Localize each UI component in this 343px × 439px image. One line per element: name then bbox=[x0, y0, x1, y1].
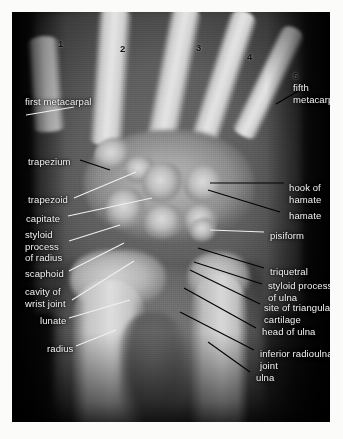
label-styloid-process-of-radius: styloid process of radius bbox=[25, 229, 62, 264]
label-lunate: lunate bbox=[40, 315, 66, 327]
label-fifth-metacarpal: fifth metacarpal bbox=[293, 82, 330, 105]
label-triquetral: triquetral bbox=[270, 266, 308, 278]
digit-number-1: 1 bbox=[58, 38, 63, 49]
label-scaphoid: scaphoid bbox=[25, 268, 64, 280]
label-head-of-ulna: head of ulna bbox=[262, 326, 316, 338]
label-hook-of-hamate: hook of hamate bbox=[289, 182, 321, 205]
digit-number-2: 2 bbox=[120, 43, 125, 54]
label-capitate: capitate bbox=[26, 213, 60, 225]
digit-number-4: 4 bbox=[247, 51, 252, 62]
label-inferior-radioulnar-joint: inferior radioulnar joint bbox=[260, 348, 330, 371]
label-trapezoid: trapezoid bbox=[28, 194, 68, 206]
label-hamate: hamate bbox=[289, 210, 321, 222]
xray-plate: 12345 first metacarpaltrapeziumtrapezoid… bbox=[12, 12, 330, 422]
label-pisiform: pisiform bbox=[270, 230, 304, 242]
radiograph-figure: 12345 first metacarpaltrapeziumtrapezoid… bbox=[0, 0, 343, 439]
label-trapezium: trapezium bbox=[28, 156, 71, 168]
label-first-metacarpal: first metacarpal bbox=[25, 96, 92, 108]
digit-number-5: 5 bbox=[293, 70, 298, 81]
label-radius: radius bbox=[47, 343, 73, 355]
digit-number-3: 3 bbox=[196, 42, 201, 53]
label-site-of-triangular-cartilage: site of triangular cartilage bbox=[264, 302, 330, 325]
label-cavity-of-wrist-joint: cavity of wrist joint bbox=[25, 286, 66, 309]
label-styloid-process-of-ulna: styloid process of ulna bbox=[268, 280, 330, 303]
label-ulna: ulna bbox=[256, 372, 274, 384]
